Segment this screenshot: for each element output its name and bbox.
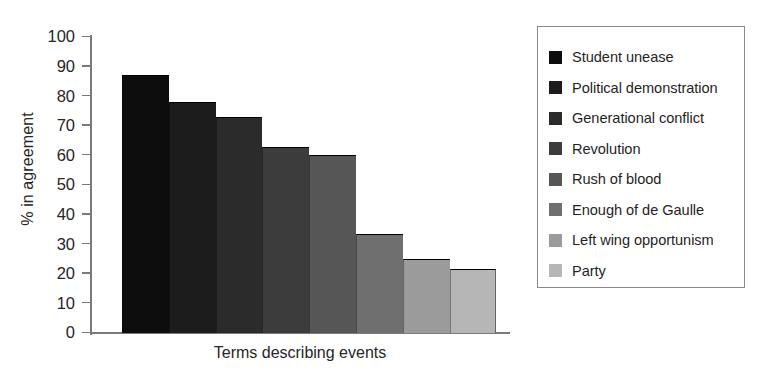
y-axis-tick: 70: [82, 124, 90, 125]
legend-swatch-icon: [549, 51, 562, 64]
legend-item-label: Enough of de Gaulle: [572, 202, 704, 218]
y-axis-tick-label: 20: [57, 264, 75, 283]
y-axis-tick: 80: [82, 95, 90, 96]
y-axis-tick: 10: [82, 302, 90, 303]
y-axis-tick-label: 10: [57, 293, 75, 312]
y-axis-tick-label: 30: [57, 234, 75, 253]
y-axis-tick-label: 70: [57, 116, 75, 135]
legend-item[interactable]: Party: [538, 256, 744, 287]
y-axis-tick-label: 80: [57, 86, 75, 105]
bar[interactable]: [262, 147, 309, 333]
bar-chart-figure: % in agreement 1009080706050403020100 Te…: [0, 0, 774, 386]
bar[interactable]: [356, 234, 403, 333]
y-axis-tick-label: 90: [57, 56, 75, 75]
legend-swatch-icon: [549, 112, 562, 125]
bar[interactable]: [169, 102, 216, 333]
legend-item-label: Left wing opportunism: [572, 232, 714, 248]
legend-swatch-icon: [549, 264, 562, 277]
y-axis-tick: 0: [82, 332, 90, 333]
bar[interactable]: [122, 75, 169, 333]
x-axis-title: Terms describing events: [90, 344, 510, 362]
legend-swatch-icon: [549, 142, 562, 155]
y-axis-tick: 30: [82, 243, 90, 244]
y-axis-tick-label: 40: [57, 204, 75, 223]
legend-item[interactable]: Left wing opportunism: [538, 225, 744, 256]
legend-swatch-icon: [549, 203, 562, 216]
legend-item[interactable]: Political demonstration: [538, 73, 744, 104]
legend-swatch-icon: [549, 81, 562, 94]
legend-swatch-icon: [549, 234, 562, 247]
y-axis-tick: 50: [82, 184, 90, 185]
y-axis-tick: 60: [82, 154, 90, 155]
legend-item[interactable]: Revolution: [538, 134, 744, 165]
chart-legend: Student uneasePolitical demonstrationGen…: [537, 26, 745, 288]
legend-item[interactable]: Rush of blood: [538, 164, 744, 195]
y-axis-line: [90, 35, 92, 335]
y-axis-tick-label: 50: [57, 175, 75, 194]
legend-item-label: Rush of blood: [572, 171, 661, 187]
plot-area: 1009080706050403020100: [90, 37, 510, 333]
y-axis-title: % in agreement: [19, 79, 37, 259]
legend-item-label: Student unease: [572, 49, 674, 65]
y-axis-tick-label: 0: [66, 323, 75, 342]
bar[interactable]: [450, 269, 497, 333]
y-axis-tick: 40: [82, 213, 90, 214]
legend-item-label: Generational conflict: [572, 110, 704, 126]
y-axis-tick: 90: [82, 65, 90, 66]
legend-item[interactable]: Student unease: [538, 42, 744, 73]
y-axis-tick: 20: [82, 272, 90, 273]
bar[interactable]: [403, 259, 450, 333]
y-axis-tick: 100: [82, 36, 90, 37]
legend-item-label: Political demonstration: [572, 80, 718, 96]
y-axis-tick-label: 60: [57, 145, 75, 164]
legend-item-label: Revolution: [572, 141, 640, 157]
legend-item[interactable]: Generational conflict: [538, 103, 744, 134]
bar[interactable]: [216, 117, 263, 333]
legend-item[interactable]: Enough of de Gaulle: [538, 195, 744, 226]
legend-item-label: Party: [572, 263, 606, 279]
bar[interactable]: [309, 155, 356, 333]
bars-group: [122, 37, 496, 333]
y-axis-tick-label: 100: [47, 27, 75, 46]
legend-swatch-icon: [549, 173, 562, 186]
